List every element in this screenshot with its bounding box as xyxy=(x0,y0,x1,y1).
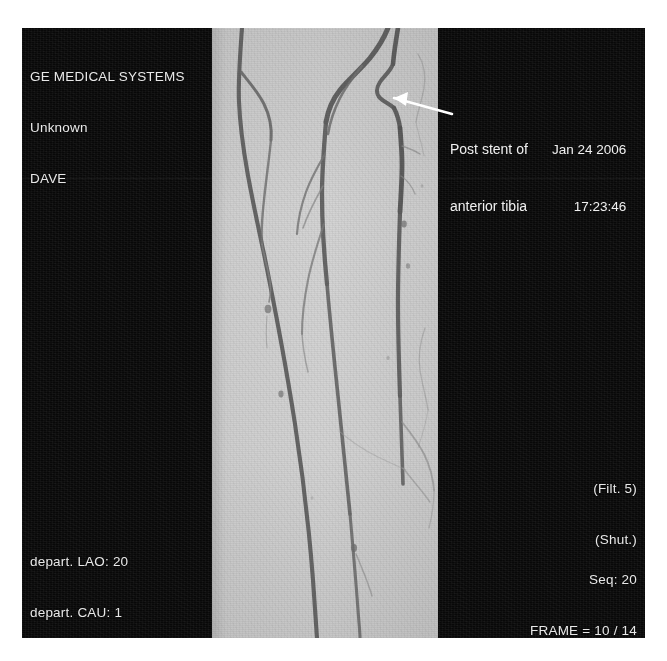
acquisition-date-label: Jan 24 2006 xyxy=(552,140,626,159)
acquisition-time-label: 17:23:46 xyxy=(552,197,626,216)
annotation-line-1: Post stent of xyxy=(450,140,528,159)
angiography-viewer: GE MEDICAL SYSTEMS Unknown DAVE Post ste… xyxy=(0,0,667,661)
filter-label: (Filt. 5) xyxy=(593,480,637,497)
study-description-label: Unknown xyxy=(30,119,185,136)
patient-name-label: DAVE xyxy=(30,170,185,187)
annotation-overlay: Post stent of anterior tibia xyxy=(450,102,528,254)
frame-counter-label: FRAME = 10 / 14 xyxy=(530,622,637,638)
acquisition-datetime-overlay: Jan 24 2006 17:23:46 xyxy=(552,102,626,254)
lao-angle-label: depart. LAO: 20 xyxy=(30,553,154,570)
image-frame: GE MEDICAL SYSTEMS Unknown DAVE Post ste… xyxy=(22,28,645,638)
institution-label: GE MEDICAL SYSTEMS xyxy=(30,68,185,85)
cau-angle-label: depart. CAU: 1 xyxy=(30,604,154,621)
technique-overlay: depart. LAO: 20 depart. CAU: 1 depart. L… xyxy=(30,519,154,638)
header-overlay: GE MEDICAL SYSTEMS Unknown DAVE xyxy=(30,34,185,221)
sequence-overlay: Seq: 20 FRAME = 10 / 14 MASK = 1 xyxy=(530,537,637,638)
annotation-line-2: anterior tibia xyxy=(450,197,528,216)
angiogram-image-field xyxy=(212,28,438,638)
sequence-number-label: Seq: 20 xyxy=(530,571,637,588)
vessel-tree-render xyxy=(212,28,438,638)
